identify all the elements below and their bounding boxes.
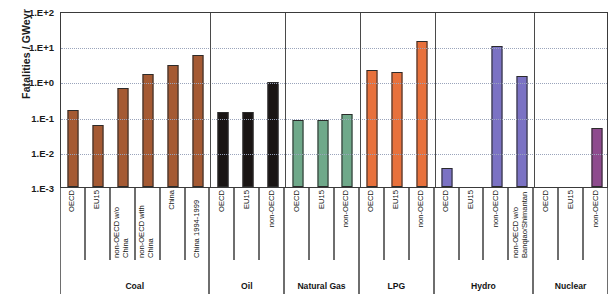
category-cell: China — [160, 188, 185, 260]
category-label: EU15 — [467, 190, 476, 209]
category-label: OECD — [442, 190, 451, 212]
category-cell: OECD — [60, 188, 85, 260]
bar-slot — [460, 13, 485, 187]
category-label: non-OECD w/o China — [114, 192, 131, 258]
category-cell: non-OECD w/o China — [110, 188, 135, 260]
category-cell: OECD — [284, 188, 309, 260]
y-axis-tick-label: 1.E+2 — [29, 7, 54, 18]
bar — [68, 110, 79, 187]
category-label: non-OECD — [417, 190, 426, 227]
group-divider — [435, 13, 436, 187]
bar — [367, 70, 378, 187]
gridline — [61, 83, 607, 84]
bar — [591, 128, 602, 187]
group-label: LPG — [360, 281, 433, 291]
category-label: EU15 — [317, 190, 326, 209]
bar — [93, 125, 104, 187]
category-label: EU15 — [566, 190, 575, 209]
category-label: non-OECD — [342, 190, 351, 227]
bar — [491, 46, 502, 187]
category-label: OECD — [68, 190, 77, 212]
category-label: non-OECD — [591, 190, 600, 227]
group-cell: Oil — [209, 260, 284, 294]
group-divider — [534, 13, 535, 187]
bar-slot — [61, 13, 86, 187]
category-cell: non-OECD — [483, 188, 508, 260]
bar-slot — [210, 13, 235, 187]
bar-slot — [161, 13, 186, 187]
group-label: Oil — [210, 281, 283, 291]
category-cell: non-OECD — [334, 188, 359, 260]
category-cell: non-OECD w/o Banqiao/Shimantan — [508, 188, 533, 260]
bar-slot — [385, 13, 410, 187]
gridline — [61, 48, 607, 49]
group-label-band: CoalOilNatural GasLPGHydroNuclear — [60, 260, 608, 294]
group-divider — [210, 13, 211, 187]
category-label: OECD — [541, 190, 550, 212]
bar-slot — [435, 13, 460, 187]
bar-slot — [86, 13, 111, 187]
bar-slot — [534, 13, 559, 187]
bar-slot — [136, 13, 161, 187]
group-label: Coal — [61, 281, 208, 291]
group-cell: LPG — [359, 260, 434, 294]
y-axis-tick-label: 1.E-2 — [31, 147, 54, 158]
bar — [217, 112, 228, 187]
bar-slot — [235, 13, 260, 187]
bar — [242, 112, 253, 187]
bar — [417, 41, 428, 187]
bar-slot — [584, 13, 609, 187]
category-label: non-OECD with China — [139, 192, 156, 258]
bar — [392, 72, 403, 187]
gridline — [61, 119, 607, 120]
category-label: non-OECD — [267, 190, 276, 227]
bar — [516, 76, 527, 187]
category-cell: non-OECD with China — [135, 188, 160, 260]
gridline — [61, 154, 607, 155]
category-label: EU15 — [243, 190, 252, 209]
category-cell: China 1994-1999 — [185, 188, 210, 260]
y-axis-tick-label: 1.E-3 — [31, 183, 54, 194]
category-label: non-OECD — [492, 190, 501, 227]
bar-slot — [484, 13, 509, 187]
category-label: China — [168, 190, 177, 210]
group-label: Hydro — [435, 281, 533, 291]
y-axis-tick-labels: 1.E+21.E+11.E+01.E-11.E-21.E-3 — [0, 12, 58, 188]
bar-slot — [310, 13, 335, 187]
fatalities-bar-chart: Fatalities / GWeyr 1.E+21.E+11.E+01.E-11… — [0, 0, 612, 300]
category-cell: EU15 — [459, 188, 484, 260]
y-axis-tick-label: 1.E+1 — [29, 42, 54, 53]
category-cell: OECD — [434, 188, 459, 260]
y-axis-tick-label: 1.E+0 — [29, 77, 54, 88]
category-cell: EU15 — [558, 188, 583, 260]
category-cell: EU15 — [309, 188, 334, 260]
group-label: Natural Gas — [285, 281, 358, 291]
category-label: EU15 — [93, 190, 102, 209]
group-label: Nuclear — [534, 281, 607, 291]
bar — [192, 55, 203, 187]
bar — [143, 74, 154, 187]
category-label: EU15 — [392, 190, 401, 209]
bar-slot — [186, 13, 211, 187]
group-cell: Natural Gas — [284, 260, 359, 294]
bars-layer — [61, 13, 607, 187]
bar-slot — [360, 13, 385, 187]
group-divider — [360, 13, 361, 187]
bar-slot — [260, 13, 285, 187]
bar — [342, 114, 353, 187]
category-cell: OECD — [209, 188, 234, 260]
bar-slot — [285, 13, 310, 187]
category-cell: OECD — [533, 188, 558, 260]
bar-slot — [111, 13, 136, 187]
category-label-band: OECDEU15non-OECD w/o Chinanon-OECD with … — [60, 188, 608, 260]
bar-slot — [559, 13, 584, 187]
category-cell: non-OECD — [583, 188, 608, 260]
plot-area — [60, 12, 608, 188]
group-divider — [285, 13, 286, 187]
category-cell: EU15 — [384, 188, 409, 260]
group-cell: Hydro — [434, 260, 534, 294]
bar — [267, 82, 278, 187]
bar — [118, 88, 129, 187]
category-label: China 1994-1999 — [193, 192, 202, 258]
category-cell: EU15 — [234, 188, 259, 260]
